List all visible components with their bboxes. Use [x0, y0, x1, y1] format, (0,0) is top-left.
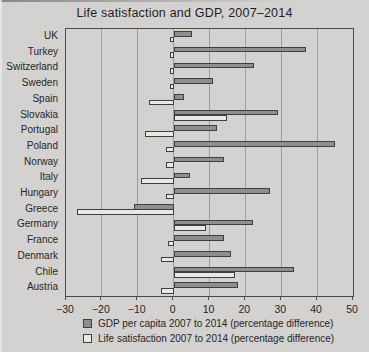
- bar-life-satisfaction: [77, 209, 174, 215]
- legend-swatch-gdp: [83, 319, 92, 328]
- category-label: Spain: [0, 91, 61, 107]
- category-label: Denmark: [0, 248, 61, 264]
- legend-item: GDP per capita 2007 to 2014 (percentage …: [83, 316, 334, 330]
- bar-life-satisfaction: [168, 241, 173, 247]
- bar-gdp: [174, 78, 213, 84]
- bar-life-satisfaction: [174, 115, 228, 121]
- gridline: [317, 29, 318, 296]
- bar-gdp: [174, 63, 255, 69]
- bar-gdp: [174, 31, 192, 37]
- bar-life-satisfaction: [141, 178, 173, 184]
- bar-life-satisfaction: [166, 147, 173, 153]
- axis-tick: [100, 296, 101, 300]
- category-label: Slovakia: [0, 107, 61, 123]
- bar-gdp: [174, 94, 185, 100]
- category-label: Italy: [0, 169, 61, 185]
- chart-title: Life satisfaction and GDP, 2007–2014: [0, 6, 369, 20]
- axis-tick: [136, 296, 137, 300]
- category-label: Germany: [0, 216, 61, 232]
- gridline: [101, 29, 102, 296]
- axis-tick: [316, 296, 317, 300]
- bar-life-satisfaction: [170, 52, 174, 58]
- y-axis-category-labels: UKTurkeySwitzerlandSwedenSpainSlovakiaPo…: [0, 28, 61, 295]
- bar-life-satisfaction: [161, 288, 174, 294]
- bar-life-satisfaction: [170, 84, 174, 90]
- bar-life-satisfaction: [145, 131, 174, 137]
- plot-area: [65, 28, 354, 297]
- bar-life-satisfaction: [166, 162, 173, 168]
- bar-gdp: [174, 282, 239, 288]
- axis-tick-label: 10: [203, 303, 215, 315]
- bar-gdp: [174, 157, 224, 163]
- axis-tick-label: −10: [128, 303, 146, 315]
- axis-tick-label: 0: [170, 303, 176, 315]
- category-label: Switzerland: [0, 59, 61, 75]
- axis-tick-label: 30: [274, 303, 286, 315]
- legend-item: Life satisfaction 2007 to 2014 (percenta…: [83, 331, 334, 345]
- bar-life-satisfaction: [170, 68, 174, 74]
- legend-label: Life satisfaction 2007 to 2014 (percenta…: [98, 333, 334, 344]
- chart-figure: Life satisfaction and GDP, 2007–2014 UKT…: [0, 0, 369, 352]
- gridline: [137, 29, 138, 296]
- legend-swatch-life-satisfaction: [83, 334, 92, 343]
- axis-tick: [244, 296, 245, 300]
- bar-gdp: [174, 125, 217, 131]
- bar-gdp: [174, 173, 190, 179]
- bar-gdp: [174, 235, 224, 241]
- axis-tick-label: 20: [239, 303, 251, 315]
- gridline: [281, 29, 282, 296]
- scan-artifact-top-edge: [0, 0, 369, 2]
- axis-tick-label: −30: [56, 303, 74, 315]
- x-axis: −30−20−1001020304050: [65, 296, 352, 318]
- category-label: Poland: [0, 138, 61, 154]
- gridline: [245, 29, 246, 296]
- category-label: Hungary: [0, 185, 61, 201]
- category-label: Portugal: [0, 122, 61, 138]
- legend-label: GDP per capita 2007 to 2014 (percentage …: [98, 318, 333, 329]
- bar-life-satisfaction: [161, 257, 174, 263]
- axis-tick: [208, 296, 209, 300]
- bar-life-satisfaction: [149, 100, 174, 106]
- axis-tick-label: 50: [346, 303, 358, 315]
- bar-life-satisfaction: [170, 37, 174, 43]
- bar-gdp: [174, 47, 307, 53]
- bar-life-satisfaction: [174, 225, 206, 231]
- bar-gdp: [174, 141, 335, 147]
- bar-gdp: [174, 188, 271, 194]
- bar-life-satisfaction: [174, 272, 235, 278]
- axis-tick: [352, 296, 353, 300]
- category-label: UK: [0, 28, 61, 44]
- category-label: France: [0, 232, 61, 248]
- axis-tick: [280, 296, 281, 300]
- axis-tick-label: −20: [92, 303, 110, 315]
- category-label: Turkey: [0, 44, 61, 60]
- category-label: Austria: [0, 279, 61, 295]
- axis-tick-label: 40: [310, 303, 322, 315]
- category-label: Norway: [0, 154, 61, 170]
- category-label: Greece: [0, 201, 61, 217]
- axis-tick: [65, 296, 66, 300]
- category-label: Sweden: [0, 75, 61, 91]
- bar-life-satisfaction: [166, 194, 173, 200]
- axis-tick: [172, 296, 173, 300]
- bar-gdp: [174, 251, 231, 257]
- category-label: Chile: [0, 264, 61, 280]
- legend: GDP per capita 2007 to 2014 (percentage …: [83, 316, 334, 346]
